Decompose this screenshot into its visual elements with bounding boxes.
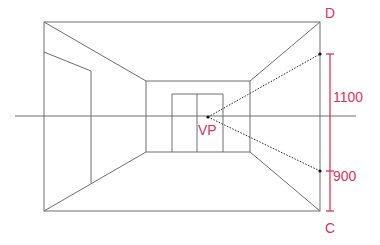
floor-right-edge [250,152,320,211]
lower-guide-line [208,117,320,171]
perspective-diagram: VP D C 1100 900 [0,0,380,245]
vp-label: VP [198,123,217,137]
floor-left-edge [44,152,146,211]
upper-point-dot [318,52,321,55]
corner-d-label: D [325,6,335,20]
ceiling-right-edge [250,22,320,81]
ceiling-left-edge [44,22,146,81]
upper-guide-line [208,54,320,117]
dimension-900-label: 900 [333,169,356,183]
lower-point-dot [318,169,321,172]
left-wall-panel [44,52,91,183]
perspective-drawing [0,0,380,245]
vanishing-point-dot [206,115,209,118]
corner-c-label: C [325,221,335,235]
dimension-1100-label: 1100 [333,90,363,104]
